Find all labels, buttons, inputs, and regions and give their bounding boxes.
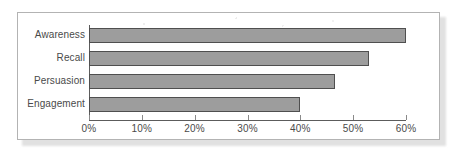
x-axis-tick-20	[195, 115, 196, 120]
bar-persuasion	[89, 74, 335, 89]
category-label-awareness: Awareness	[35, 29, 85, 40]
x-axis-tick-60	[406, 115, 407, 120]
x-axis-tick-50	[353, 115, 354, 120]
bar-engagement	[89, 97, 300, 112]
plot-area: 0% 10% 20% 30% 40% 50% 60% Awareness Rec…	[18, 13, 441, 141]
x-axis-tick-40	[300, 115, 301, 120]
value-axis-line	[89, 120, 406, 121]
x-axis-tick-0	[89, 115, 90, 120]
bar-awareness	[89, 28, 406, 43]
bar-recall	[89, 51, 369, 66]
chart-page: 0% 10% 20% 30% 40% 50% 60% Awareness Rec…	[0, 0, 464, 163]
x-axis-tick-label-10: 10%	[122, 123, 162, 134]
category-label-engagement: Engagement	[27, 98, 85, 109]
x-axis-tick-label-50: 50%	[333, 123, 373, 134]
x-axis-tick-label-0: 0%	[69, 123, 109, 134]
x-axis-tick-label-60: 60%	[386, 123, 426, 134]
category-label-recall: Recall	[57, 52, 85, 63]
category-label-persuasion: Persuasion	[34, 75, 85, 86]
x-axis-tick-label-30: 30%	[228, 123, 268, 134]
x-axis-tick-label-40: 40%	[280, 123, 320, 134]
chart-frame: 0% 10% 20% 30% 40% 50% 60% Awareness Rec…	[17, 12, 440, 140]
x-axis-tick-10	[142, 115, 143, 120]
x-axis-tick-label-20: 20%	[175, 123, 215, 134]
x-axis-tick-30	[248, 115, 249, 120]
